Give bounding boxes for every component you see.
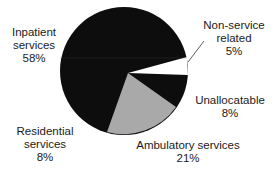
label-unallocatable: Unallocatable 8% bbox=[188, 94, 272, 120]
label-text: services bbox=[10, 138, 80, 151]
label-residential: Residential services 8% bbox=[10, 125, 80, 164]
label-value: 5% bbox=[194, 45, 274, 58]
label-text: Residential bbox=[10, 125, 80, 138]
label-value: 8% bbox=[10, 151, 80, 164]
label-value: 8% bbox=[188, 107, 272, 120]
label-text: Ambulatory services bbox=[128, 139, 248, 152]
label-text: services bbox=[4, 39, 64, 52]
label-value: 58% bbox=[4, 52, 64, 65]
label-non-service: Non-service related 5% bbox=[194, 19, 274, 58]
label-value: 21% bbox=[128, 152, 248, 165]
label-text: related bbox=[194, 32, 274, 45]
label-text: Inpatient bbox=[4, 26, 64, 39]
label-inpatient: Inpatient services 58% bbox=[4, 26, 64, 65]
label-ambulatory: Ambulatory services 21% bbox=[128, 139, 248, 165]
label-text: Unallocatable bbox=[188, 94, 272, 107]
label-text: Non-service bbox=[194, 19, 274, 32]
